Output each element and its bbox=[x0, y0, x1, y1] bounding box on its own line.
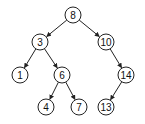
edge-8-to-10 bbox=[79, 20, 99, 37]
binary-tree-diagram: 831016144713 bbox=[0, 0, 145, 124]
tree-node-7: 7 bbox=[71, 99, 87, 115]
node-label: 4 bbox=[43, 102, 49, 113]
edge-8-to-3 bbox=[47, 20, 67, 37]
node-label: 1 bbox=[17, 70, 23, 81]
tree-node-10: 10 bbox=[98, 34, 114, 50]
node-label: 8 bbox=[70, 10, 76, 21]
edge-14-to-13 bbox=[111, 82, 122, 100]
edge-6-to-4 bbox=[50, 82, 59, 99]
tree-node-14: 14 bbox=[118, 67, 134, 83]
tree-node-4: 4 bbox=[38, 99, 54, 115]
edge-10-to-14 bbox=[110, 49, 121, 68]
tree-node-8: 8 bbox=[65, 7, 81, 23]
tree-node-3: 3 bbox=[32, 34, 48, 50]
edge-3-to-1 bbox=[24, 49, 35, 68]
nodes-group: 831016144713 bbox=[12, 7, 134, 115]
node-label: 14 bbox=[120, 70, 132, 81]
node-label: 7 bbox=[76, 102, 82, 113]
node-label: 6 bbox=[59, 70, 65, 81]
edge-6-to-7 bbox=[66, 82, 75, 99]
tree-node-1: 1 bbox=[12, 67, 28, 83]
edge-3-to-6 bbox=[44, 49, 57, 68]
tree-node-6: 6 bbox=[54, 67, 70, 83]
node-label: 3 bbox=[37, 37, 43, 48]
edges-group bbox=[24, 20, 121, 100]
node-label: 10 bbox=[100, 37, 112, 48]
node-label: 13 bbox=[100, 102, 112, 113]
tree-node-13: 13 bbox=[98, 99, 114, 115]
